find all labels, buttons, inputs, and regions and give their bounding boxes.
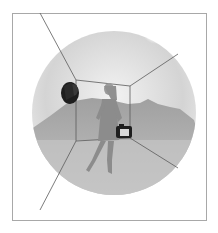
camera-icon — [116, 124, 132, 138]
speaker-object — [61, 82, 79, 104]
sun-icon — [142, 16, 170, 44]
illustration — [0, 0, 218, 233]
